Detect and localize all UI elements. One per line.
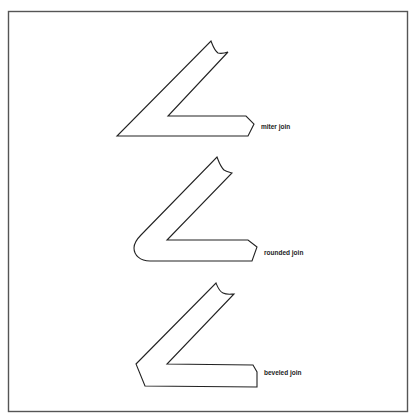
- rounded-join-example: rounded join: [134, 157, 303, 261]
- miter-join-label: miter join: [261, 123, 290, 131]
- beveled-join-example: beveled join: [136, 283, 302, 387]
- beveled-join-shape: [136, 283, 257, 387]
- rounded-join-shape: [134, 157, 257, 261]
- line-join-diagram: miter join rounded join beveled join: [0, 0, 418, 416]
- beveled-join-label: beveled join: [264, 369, 302, 377]
- miter-join-shape: [117, 41, 254, 136]
- miter-join-example: miter join: [117, 41, 290, 136]
- rounded-join-label: rounded join: [264, 249, 303, 257]
